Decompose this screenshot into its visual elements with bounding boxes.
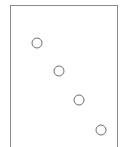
data-point-2	[54, 66, 64, 76]
figure-canvas	[0, 0, 124, 147]
data-point-4	[96, 125, 106, 135]
data-point-3	[74, 95, 84, 105]
scatter-plot	[0, 0, 124, 147]
data-point-1	[32, 38, 42, 48]
